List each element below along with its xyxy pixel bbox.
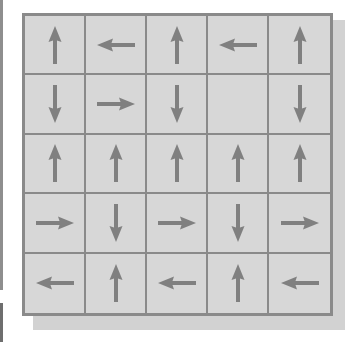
arrow-up-icon: [35, 143, 75, 183]
arrow-left-icon: [157, 263, 197, 303]
arrow-up-icon: [218, 143, 258, 183]
arrow-left-icon: [218, 25, 258, 65]
arrow-grid: [22, 13, 333, 316]
grid-cell: [208, 16, 269, 75]
grid-cell: [269, 135, 330, 194]
arrow-up-icon: [96, 143, 136, 183]
grid-cell: [147, 135, 208, 194]
arrow-right-icon: [35, 203, 75, 243]
arrow-up-icon: [157, 25, 197, 65]
arrow-right-icon: [96, 84, 136, 124]
grid-cell: [86, 16, 147, 75]
grid-cell: [25, 16, 86, 75]
grid-cell: [269, 75, 330, 134]
arrow-down-icon: [218, 203, 258, 243]
grid-cell: [86, 194, 147, 253]
arrow-down-icon: [96, 203, 136, 243]
grid-cell: [147, 194, 208, 253]
grid-cell: [208, 254, 269, 313]
arrow-down-icon: [157, 84, 197, 124]
grid-cell: [208, 135, 269, 194]
grid-cell: [25, 135, 86, 194]
grid-cell: [269, 254, 330, 313]
grid-cell: [147, 16, 208, 75]
grid-cell: [208, 194, 269, 253]
grid-cell: [86, 135, 147, 194]
arrow-up-icon: [280, 143, 320, 183]
grid-cell: [208, 75, 269, 134]
grid-cell: [269, 16, 330, 75]
arrow-left-icon: [35, 263, 75, 303]
arrow-left-icon: [96, 25, 136, 65]
grid-cell: [147, 254, 208, 313]
arrow-left-icon: [280, 263, 320, 303]
grid-cell: [269, 194, 330, 253]
grid-cell: [86, 254, 147, 313]
left-edge-bar: [0, 0, 3, 290]
arrow-up-icon: [280, 25, 320, 65]
grid-cell: [25, 194, 86, 253]
left-edge-bar-lower: [0, 303, 3, 342]
grid-cell: [25, 254, 86, 313]
arrow-up-icon: [157, 143, 197, 183]
arrow-down-icon: [35, 84, 75, 124]
arrow-down-icon: [280, 84, 320, 124]
arrow-up-icon: [218, 263, 258, 303]
arrow-up-icon: [96, 263, 136, 303]
grid-cell: [147, 75, 208, 134]
arrow-right-icon: [280, 203, 320, 243]
arrow-right-icon: [157, 203, 197, 243]
arrow-up-icon: [35, 25, 75, 65]
grid-cell: [25, 75, 86, 134]
grid-cell: [86, 75, 147, 134]
